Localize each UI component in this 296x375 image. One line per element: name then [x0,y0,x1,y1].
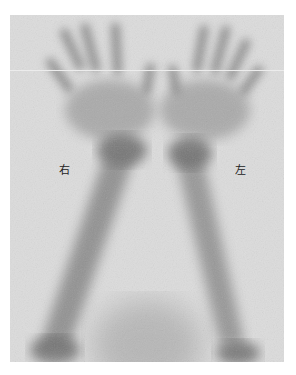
scan-graphic [10,15,284,362]
scan-artifact-line [10,70,284,71]
left-side-label: 左 [235,161,246,177]
scintigraphy-image: 右 左 [10,15,284,362]
right-side-label: 右 [59,161,70,177]
